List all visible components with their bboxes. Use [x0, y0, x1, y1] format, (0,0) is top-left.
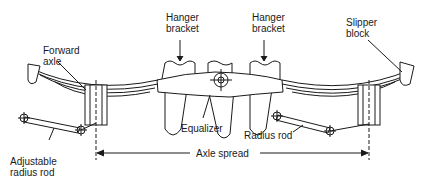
- label-hanger-bracket-left: Hanger bracket: [166, 12, 199, 34]
- slipper-block-shape: [400, 62, 414, 85]
- adjustable-radius-rod-shape: [24, 117, 80, 133]
- label-radius-rod: Radius rod: [244, 130, 292, 141]
- label-forward-axle: Forward axle: [43, 45, 80, 67]
- label-axle-spread: Axle spread: [196, 148, 249, 159]
- label-adjustable-radius-rod: Adjustable radius rod: [10, 156, 57, 178]
- label-slipper-block: Slipper block: [346, 17, 377, 39]
- label-hanger-bracket-right: Hanger bracket: [252, 12, 285, 34]
- front-spring-eye: [28, 64, 40, 84]
- label-equalizer: Equalizer: [181, 123, 223, 134]
